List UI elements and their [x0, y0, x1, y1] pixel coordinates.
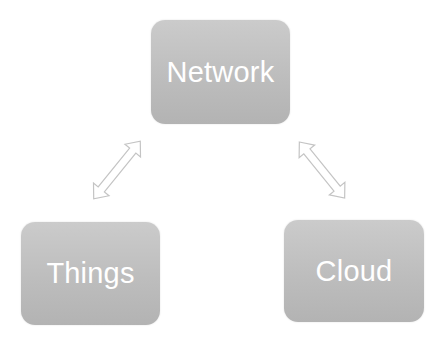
double-arrow-icon-things-network	[86, 135, 148, 205]
node-label-things: Things	[46, 257, 134, 290]
node-cloud: Cloud	[284, 220, 424, 322]
node-network: Network	[151, 20, 290, 124]
double-arrow-icon-network-cloud	[292, 136, 353, 205]
node-label-network: Network	[167, 56, 275, 89]
node-things: Things	[21, 222, 160, 325]
node-label-cloud: Cloud	[316, 255, 393, 288]
